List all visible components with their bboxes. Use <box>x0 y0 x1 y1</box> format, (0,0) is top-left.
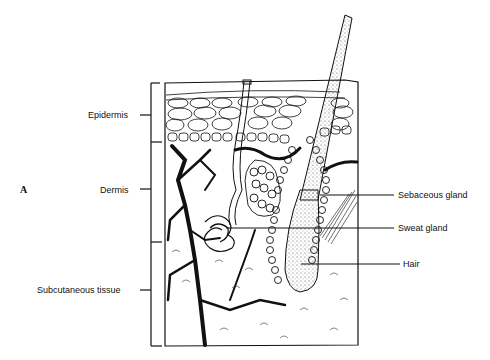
layer-bracket <box>140 83 162 346</box>
blood-vessels <box>168 146 357 345</box>
label-hair: Hair <box>403 259 420 269</box>
sweat-gland <box>204 216 234 252</box>
label-sweat-gland: Sweat gland <box>398 223 448 233</box>
arrector-pili-muscle <box>320 190 357 244</box>
panel-letter: A <box>20 184 27 195</box>
label-epidermis: Epidermis <box>88 110 128 120</box>
skin-diagram <box>0 0 490 360</box>
label-sebaceous-gland: Sebaceous gland <box>398 190 468 200</box>
label-dermis: Dermis <box>100 185 129 195</box>
label-subcutaneous-tissue: Subcutaneous tissue <box>37 285 121 295</box>
